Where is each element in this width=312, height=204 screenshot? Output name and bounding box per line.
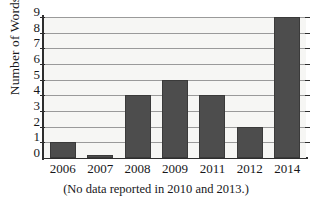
y-tick-label: 5 — [24, 68, 40, 81]
chart-caption: (No data reported in 2010 and 2013.) — [0, 182, 312, 197]
x-axis-tick-labels: 2006200720082009201120122014 — [44, 161, 306, 179]
bar — [125, 95, 151, 158]
x-tick-label: 2014 — [269, 161, 306, 177]
y-tick-label: 1 — [24, 130, 40, 143]
y-tick-label: 8 — [24, 21, 40, 34]
bar-chart: Number of Words 0123456789 2006200720082… — [0, 0, 312, 204]
bar — [87, 155, 113, 158]
bar — [237, 127, 263, 158]
x-tick-label: 2012 — [231, 161, 268, 177]
y-tick-label: 7 — [24, 36, 40, 49]
y-tick-label: 0 — [24, 146, 40, 159]
plot-area — [44, 17, 306, 158]
x-tick-label: 2008 — [119, 161, 156, 177]
y-tick-label: 6 — [24, 52, 40, 65]
bar — [199, 95, 225, 158]
y-tick-label: 4 — [24, 83, 40, 96]
x-tick-label: 2007 — [81, 161, 118, 177]
y-tick-label: 9 — [24, 5, 40, 18]
y-tick-label: 3 — [24, 99, 40, 112]
bars — [44, 17, 306, 158]
bar — [162, 80, 188, 158]
x-tick-label: 2009 — [156, 161, 193, 177]
bar — [50, 142, 76, 158]
x-tick-label: 2006 — [44, 161, 81, 177]
y-axis-title: Number of Words — [5, 0, 25, 111]
y-tick-label: 2 — [24, 115, 40, 128]
y-axis-tick-labels: 0123456789 — [24, 11, 40, 163]
bar — [274, 17, 300, 158]
x-tick-label: 2011 — [194, 161, 231, 177]
